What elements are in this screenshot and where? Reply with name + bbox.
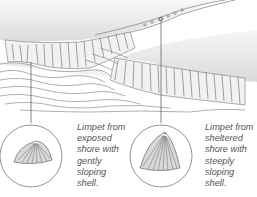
limpet-illustration: Limpet from exposed shore with gently sl…	[0, 0, 257, 197]
caption-line: Limpet from	[77, 122, 139, 133]
caption-line: shore with	[205, 144, 257, 155]
caption-line: shore with	[77, 144, 139, 155]
caption-line: sheltered	[205, 133, 257, 144]
exposed-limpet-caption: Limpet from exposed shore with gently sl…	[77, 122, 139, 189]
sheltered-limpet-caption: Limpet from sheltered shore with steeply…	[205, 122, 257, 189]
caption-line: sloping	[205, 167, 257, 178]
caption-line: sloping	[77, 167, 139, 178]
exposed-limpet-callout	[0, 125, 62, 187]
caption-line: shell.	[205, 178, 257, 189]
sheltered-limpet-callout	[130, 125, 192, 187]
caption-line: exposed	[77, 133, 139, 144]
caption-line: gently	[77, 156, 139, 167]
upper-plateau	[0, 0, 220, 42]
caption-line: steeply	[205, 156, 257, 167]
caption-line: Limpet from	[205, 122, 257, 133]
caption-line: shell.	[77, 178, 139, 189]
